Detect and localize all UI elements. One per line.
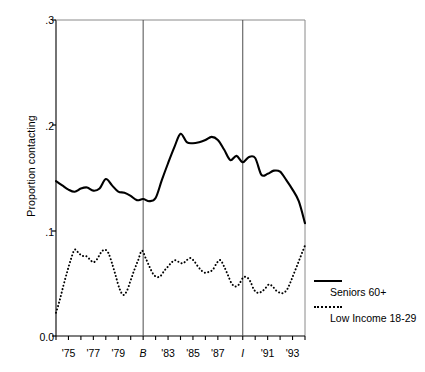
legend-label-seniors: Seniors 60+	[330, 286, 386, 298]
x-tick-label-87: '87	[211, 348, 225, 359]
legend-solid-line-swatch-icon	[314, 280, 342, 282]
chart-legend: Seniors 60+ Low Income 18-29	[312, 276, 425, 328]
x-tick-label-75: '75	[62, 348, 76, 359]
x-tick-label-91: '91	[261, 348, 275, 359]
x-tick-label-85: '85	[186, 348, 200, 359]
x-tick-label-I: I	[241, 348, 244, 359]
x-tick-label-83: '83	[161, 348, 175, 359]
x-tick-label-79: '79	[111, 348, 125, 359]
legend-entry-low-income: Low Income 18-29	[312, 302, 425, 328]
x-tick-label-B: B	[140, 348, 147, 359]
chart-figure: Proportion contacting 0.0 .1 .2 .3	[0, 0, 425, 372]
legend-entry-seniors: Seniors 60+	[312, 276, 425, 302]
x-tick-label-93: '93	[286, 348, 300, 359]
legend-label-low-income: Low Income 18-29	[330, 312, 416, 324]
x-tick-label-77: '77	[86, 348, 100, 359]
legend-dotted-line-swatch-icon	[314, 306, 342, 308]
